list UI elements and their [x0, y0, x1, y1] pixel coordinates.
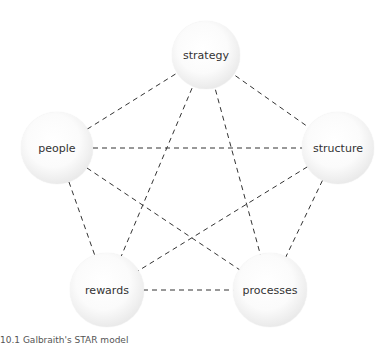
node-label: rewards	[85, 284, 129, 297]
node-label: people	[38, 142, 75, 155]
node-structure: structure	[302, 112, 374, 184]
node-strategy: strategy	[172, 21, 240, 89]
edge-structure-rewards	[107, 148, 338, 290]
node-label: structure	[313, 142, 363, 155]
node-rewards: rewards	[70, 253, 144, 327]
figure-caption: 10.1 Galbraith's STAR model	[0, 334, 128, 343]
node-label: processes	[243, 284, 298, 297]
node-label: strategy	[183, 49, 229, 62]
node-processes: processes	[233, 253, 307, 327]
node-people: people	[21, 112, 93, 184]
edge-strategy-rewards	[107, 55, 206, 290]
